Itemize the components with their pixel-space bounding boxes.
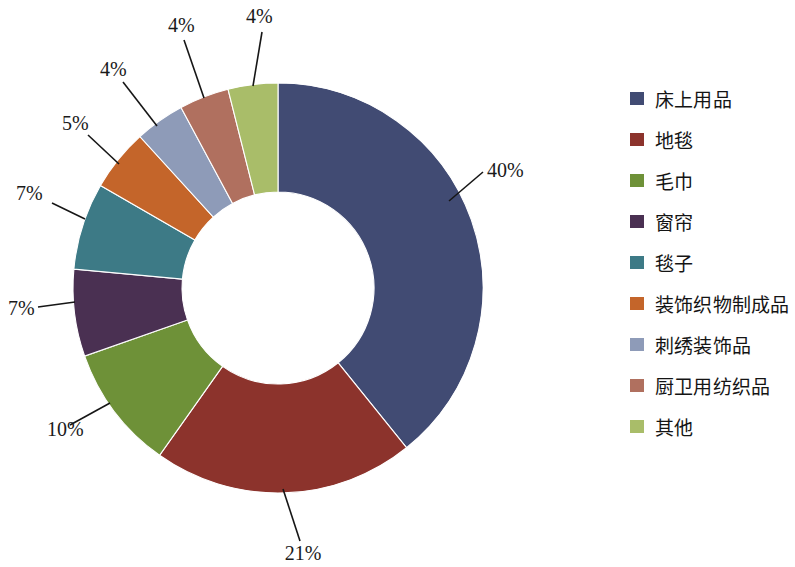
legend-item[interactable]: 窗帘: [630, 201, 790, 242]
legend-swatch-icon: [630, 379, 644, 392]
donut-chart-figure: 40%21%10%7%7%5%4%4%4% 床上用品地毯毛巾窗帘毯子装饰织物制成…: [0, 0, 795, 567]
data-label-percent: 7%: [8, 297, 35, 319]
legend-item-label: 其他: [655, 413, 693, 440]
legend-item[interactable]: 厨卫用纺织品: [630, 365, 790, 406]
data-label-percent: 7%: [16, 182, 43, 204]
legend-swatch-icon: [630, 133, 644, 146]
legend-swatch-icon: [630, 256, 644, 269]
leader-line: [283, 489, 300, 541]
legend-swatch-icon: [630, 420, 644, 433]
data-label-percent: 5%: [62, 112, 89, 134]
leader-line: [184, 40, 204, 98]
legend-item[interactable]: 床上用品: [630, 78, 790, 119]
legend-item-label: 毛巾: [655, 167, 693, 194]
legend-item-label: 毯子: [655, 249, 693, 276]
leader-line: [52, 203, 85, 219]
legend-swatch-icon: [630, 338, 644, 351]
legend-item-label: 刺绣装饰品: [655, 331, 751, 358]
legend-item[interactable]: 装饰织物制成品: [630, 283, 790, 324]
legend-item[interactable]: 地毯: [630, 119, 790, 160]
data-label-percent: 4%: [100, 58, 127, 80]
leader-line: [253, 32, 262, 86]
pie-slices-group: [73, 83, 483, 493]
legend-item-label: 装饰织物制成品: [655, 290, 789, 317]
legend-item-label: 地毯: [655, 126, 693, 153]
legend-swatch-icon: [630, 92, 644, 105]
legend-item-label: 窗帘: [655, 208, 693, 235]
legend-item[interactable]: 其他: [630, 406, 790, 447]
leader-line: [88, 135, 119, 164]
data-label-percent: 4%: [168, 14, 195, 36]
legend-swatch-icon: [630, 174, 644, 187]
data-label-percent: 4%: [246, 5, 273, 27]
legend-item[interactable]: 刺绣装饰品: [630, 324, 790, 365]
legend-item-label: 厨卫用纺织品: [655, 372, 770, 399]
chart-legend: 床上用品地毯毛巾窗帘毯子装饰织物制成品刺绣装饰品厨卫用纺织品其他: [630, 78, 790, 447]
leader-line: [123, 82, 157, 126]
legend-item[interactable]: 毛巾: [630, 160, 790, 201]
legend-item[interactable]: 毯子: [630, 242, 790, 283]
legend-item-label: 床上用品: [655, 85, 732, 112]
data-label-percent: 40%: [487, 159, 524, 181]
leader-line: [38, 302, 75, 307]
data-label-percent: 10%: [47, 418, 84, 440]
data-label-percent: 21%: [285, 542, 322, 564]
legend-swatch-icon: [630, 297, 644, 310]
legend-swatch-icon: [630, 215, 644, 228]
